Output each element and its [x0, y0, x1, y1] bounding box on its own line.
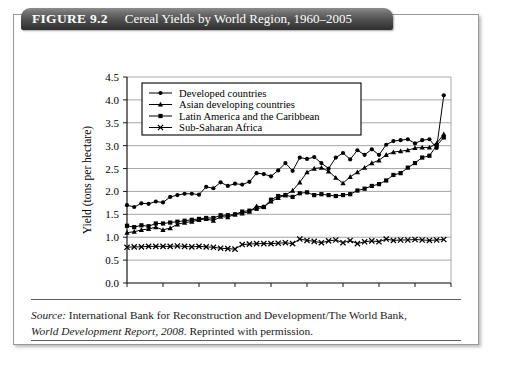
data-point	[255, 207, 259, 211]
data-point	[370, 147, 374, 151]
data-point	[370, 184, 374, 188]
x-tick-label: 2005	[440, 290, 463, 293]
source-text-1: International Bank for Reconstruction an…	[66, 309, 407, 321]
legend-label: Asian developing countries	[179, 99, 295, 110]
x-tick-label: 1975	[224, 290, 247, 293]
legend-marker	[158, 91, 162, 95]
data-point	[413, 141, 417, 145]
data-point	[420, 155, 424, 159]
data-point	[427, 154, 431, 158]
data-point	[161, 200, 165, 204]
data-point	[298, 155, 302, 159]
data-point	[399, 171, 403, 175]
data-point	[391, 173, 395, 177]
data-point	[442, 93, 446, 97]
y-tick-label: 1.5	[105, 208, 119, 220]
legend-label: Sub-Saharan Africa	[179, 122, 263, 133]
y-axis-ticks	[123, 77, 127, 283]
series-sub-saharan-africa	[124, 236, 446, 251]
x-tick-label: 1960	[116, 290, 139, 293]
data-point	[125, 203, 129, 207]
data-point	[247, 180, 251, 184]
figure-header-bar: FIGURE 9.2 Cereal Yields by World Region…	[21, 8, 393, 30]
data-point	[283, 161, 287, 165]
y-axis-title: Yield (tons per hectare)	[81, 126, 94, 234]
data-point	[435, 144, 439, 148]
data-point	[334, 155, 338, 159]
data-point	[341, 151, 345, 155]
x-axis-tick-labels: 1960196519701975198019851990199520002005	[116, 290, 463, 293]
series-line	[127, 134, 444, 232]
data-point	[276, 168, 280, 172]
data-point	[391, 139, 395, 143]
data-point	[355, 188, 359, 192]
legend-marker	[158, 114, 162, 118]
data-point	[355, 170, 360, 175]
data-point	[154, 221, 158, 225]
y-tick-label: 3.0	[105, 140, 119, 152]
data-point	[204, 216, 208, 220]
x-tick-label: 1965	[152, 290, 175, 293]
data-point	[139, 223, 143, 227]
data-point	[219, 180, 223, 184]
data-point	[348, 174, 353, 179]
data-point	[291, 169, 295, 173]
data-point	[240, 182, 244, 186]
source-line-1: Source: International Bank for Reconstru…	[31, 307, 461, 323]
data-point	[413, 161, 417, 165]
data-point	[168, 195, 172, 199]
data-point	[211, 186, 215, 190]
data-point	[377, 153, 381, 157]
data-point	[190, 192, 194, 196]
data-point	[298, 191, 302, 195]
data-point	[348, 157, 352, 161]
data-point	[262, 172, 266, 176]
data-point	[183, 192, 187, 196]
cereal-yields-line-chart: 0.00.51.01.52.02.53.03.54.04.5 196019651…	[14, 39, 478, 293]
source-lead: Source:	[31, 309, 66, 321]
data-point	[219, 213, 223, 217]
legend-label: Latin America and the Caribbean	[179, 111, 320, 122]
data-point	[291, 195, 295, 199]
data-point	[132, 225, 136, 229]
data-point	[197, 193, 201, 197]
data-point	[175, 220, 179, 224]
data-point	[348, 238, 353, 243]
x-tick-label: 1970	[188, 290, 211, 293]
data-point	[183, 219, 187, 223]
data-point	[247, 209, 251, 213]
data-point	[406, 166, 410, 170]
data-point	[363, 153, 367, 157]
data-point	[420, 138, 424, 142]
data-point	[363, 187, 367, 191]
figure-title: Cereal Yields by World Region, 1960–2005	[125, 11, 352, 27]
data-point	[262, 205, 266, 209]
y-tick-label: 4.5	[105, 71, 119, 83]
data-point	[132, 205, 136, 209]
y-axis-tick-labels: 0.00.51.01.52.02.53.03.54.04.5	[105, 71, 119, 289]
data-point	[362, 165, 367, 170]
data-point	[139, 201, 143, 205]
x-tick-label: 2000	[404, 290, 427, 293]
data-point	[211, 216, 215, 220]
data-point	[240, 209, 244, 213]
figure-label: FIGURE 9.2	[32, 11, 108, 27]
source-bottom-rule	[31, 340, 461, 341]
series-latin-america-and-the-caribbean	[125, 135, 446, 229]
data-point	[168, 225, 173, 230]
x-tick-label: 1995	[368, 290, 391, 293]
y-tick-label: 2.5	[105, 163, 119, 175]
x-tick-label: 1990	[332, 290, 355, 293]
data-point	[319, 165, 324, 170]
data-point	[355, 148, 359, 152]
legend-label: Developed countries	[179, 88, 266, 99]
data-point	[233, 212, 237, 216]
series-line	[127, 239, 444, 249]
data-point	[334, 194, 338, 198]
data-point	[312, 193, 316, 197]
data-point	[269, 174, 273, 178]
x-tick-label: 1985	[296, 290, 319, 293]
series-line	[127, 137, 444, 227]
data-point	[175, 193, 179, 197]
data-point	[399, 138, 403, 142]
